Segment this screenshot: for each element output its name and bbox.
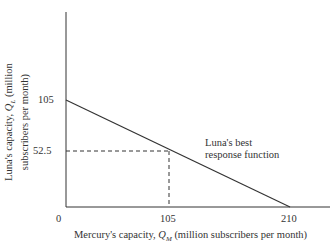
y-axis-title: Luna's capacity, QL (million subscribers…: [3, 47, 31, 197]
origin-label: 0: [56, 213, 61, 224]
y-tick-52-5: 52.5: [33, 145, 51, 156]
curve-label: Luna's best response function: [205, 137, 279, 161]
y-tick-105: 105: [38, 94, 54, 105]
x-tick-105: 105: [160, 213, 176, 224]
x-axis-title: Mercury's capacity, QM (million subscrib…: [74, 229, 307, 243]
x-tick-210: 210: [281, 213, 297, 224]
